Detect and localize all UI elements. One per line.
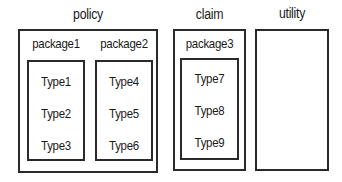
type-label: Type6 xyxy=(100,138,148,153)
module-title-claim: claim xyxy=(177,6,241,22)
type-label: Type5 xyxy=(100,106,148,121)
type-label: Type2 xyxy=(32,106,80,121)
type-label: Type8 xyxy=(185,103,233,118)
module-title-utility: utility xyxy=(259,5,324,21)
module-box-utility xyxy=(255,29,329,171)
module-title-policy: policy xyxy=(26,6,149,22)
package-title-package2: package2 xyxy=(96,36,152,51)
package-box-package2: Type4 Type5 Type6 xyxy=(95,60,153,161)
type-label: Type7 xyxy=(185,71,233,86)
type-label: Type3 xyxy=(32,138,80,153)
package-box-package1: Type1 Type2 Type3 xyxy=(27,60,85,161)
package-title-package1: package1 xyxy=(28,36,84,51)
package-box-package3: Type7 Type8 Type9 xyxy=(180,58,239,160)
type-label: Type1 xyxy=(32,74,80,89)
package-title-package3: package3 xyxy=(177,36,241,51)
type-label: Type4 xyxy=(100,74,148,89)
type-label: Type9 xyxy=(185,135,233,150)
